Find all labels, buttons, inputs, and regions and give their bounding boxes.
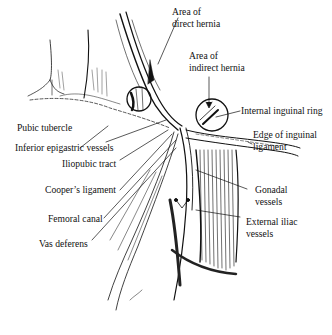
label-gonadal-2: vessels bbox=[255, 196, 282, 207]
label-pubic-tubercle: Pubic tubercle bbox=[17, 122, 72, 133]
label-indirect-hernia-2: indirect hernia bbox=[189, 62, 245, 73]
anatomy-figure: Area of direct hernia Area of indirect h… bbox=[0, 0, 332, 335]
label-gonadal-1: Gonadal bbox=[255, 184, 288, 195]
label-iliopubic-tract: Iliopubic tract bbox=[62, 158, 116, 169]
label-external-iliac-2: vessels bbox=[246, 228, 273, 239]
label-direct-hernia-2: direct hernia bbox=[172, 18, 220, 29]
label-indirect-hernia-1: Area of bbox=[189, 50, 218, 61]
label-vas-deferens: Vas deferens bbox=[39, 238, 88, 249]
inguinal-anatomy-drawing bbox=[0, 0, 332, 335]
label-external-iliac-1: External iliac bbox=[246, 216, 297, 227]
label-direct-hernia-1: Area of bbox=[172, 6, 201, 17]
label-edge-inguinal-2: ligament bbox=[253, 141, 287, 152]
label-edge-inguinal-1: Edge of inguinal bbox=[253, 129, 317, 140]
label-inferior-epigastric: Inferior epigastric vessels bbox=[15, 142, 114, 153]
label-internal-inguinal-ring: Internal inguinal ring bbox=[241, 105, 323, 116]
label-femoral-canal: Femoral canal bbox=[48, 213, 103, 224]
label-coopers-ligament: Cooper’s ligament bbox=[45, 184, 116, 195]
